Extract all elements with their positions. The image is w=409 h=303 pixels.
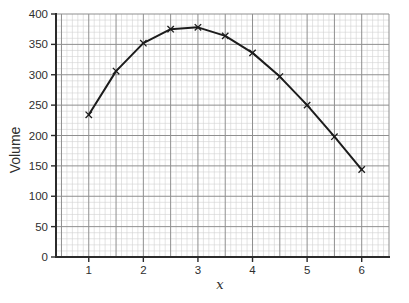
y-axis-title: Volume (7, 127, 23, 174)
y-tick-label: 100 (29, 190, 48, 202)
x-tick-label: 1 (86, 264, 92, 276)
y-tick-label: 200 (29, 130, 48, 142)
y-tick-label: 50 (35, 221, 48, 233)
volume-chart-figure: 050100150200250300350400123456 Volume x (0, 0, 409, 303)
x-tick-label: 5 (304, 264, 310, 276)
y-tick-label: 350 (29, 38, 48, 50)
x-tick-label: 2 (140, 264, 146, 276)
y-tick-label: 400 (29, 8, 48, 20)
y-tick-label: 250 (29, 99, 48, 111)
chart-plot-area: 050100150200250300350400123456 (0, 0, 409, 303)
x-axis-title: x (216, 277, 223, 292)
x-tick-label: 6 (359, 264, 365, 276)
x-tick-label: 4 (249, 264, 256, 276)
y-tick-label: 0 (42, 251, 48, 263)
y-tick-label: 300 (29, 69, 48, 81)
y-tick-label: 150 (29, 160, 48, 172)
x-tick-label: 3 (195, 264, 201, 276)
